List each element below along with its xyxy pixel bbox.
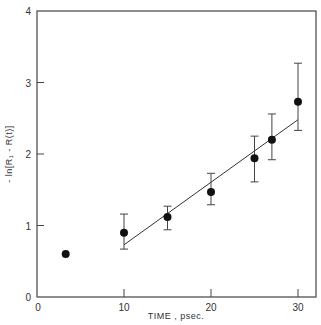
data-point bbox=[251, 154, 259, 162]
x-tick-label: 10 bbox=[118, 302, 130, 313]
y-tick-label: 1 bbox=[25, 221, 31, 232]
chart: 010203001234 TIME , psec. - ln[R₁ - R(t)… bbox=[0, 0, 321, 325]
data-point bbox=[294, 98, 302, 106]
data-point bbox=[120, 229, 128, 237]
data-point bbox=[268, 136, 276, 144]
plot-frame bbox=[37, 11, 316, 297]
axis-ticks: 010203001234 bbox=[25, 6, 304, 313]
y-tick-label: 0 bbox=[25, 292, 31, 303]
y-tick-label: 3 bbox=[25, 78, 31, 89]
data-point bbox=[207, 188, 215, 196]
data-point bbox=[62, 250, 70, 258]
data-point bbox=[164, 213, 172, 221]
x-tick-label: 20 bbox=[205, 302, 217, 313]
x-axis-label: TIME , psec. bbox=[148, 311, 205, 321]
plot-border bbox=[37, 11, 316, 297]
data-points bbox=[62, 63, 302, 258]
x-tick-label: 30 bbox=[292, 302, 304, 313]
y-tick-label: 4 bbox=[25, 6, 31, 17]
x-tick-label: 0 bbox=[35, 302, 41, 313]
y-axis-label: - ln[R₁ - R(t)] bbox=[4, 125, 14, 183]
y-tick-label: 2 bbox=[25, 149, 31, 160]
